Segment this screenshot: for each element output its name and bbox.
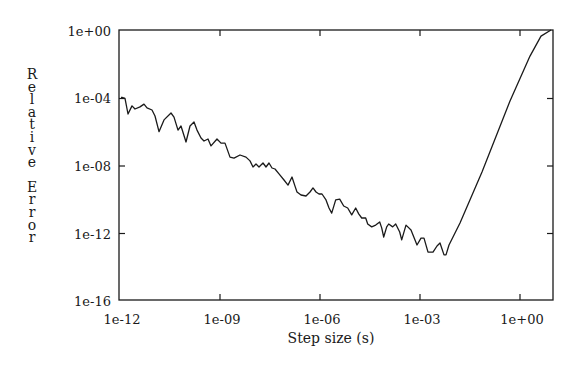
axis-ticks: [119, 30, 553, 300]
y-tick-label: 1e-16: [74, 294, 111, 309]
y-label-letter: e: [24, 156, 40, 169]
x-tick-label: 1e+00: [500, 312, 543, 327]
x-tick-label: 1e-09: [204, 312, 241, 327]
y-tick-label: 1e-08: [74, 159, 111, 174]
y-label-letter: r: [24, 231, 40, 244]
y-tick-label: 1e+00: [68, 24, 111, 39]
x-axis-label: Step size (s): [288, 330, 375, 346]
x-tick-label: 1e-12: [104, 312, 141, 327]
plot-frame: [119, 30, 553, 300]
error-curve: [121, 30, 551, 255]
y-tick-label: 1e-04: [74, 91, 111, 106]
x-tick-label: 1e-06: [304, 312, 341, 327]
y-axis-label: RelativeError: [24, 68, 40, 244]
chart-canvas: [0, 0, 580, 372]
y-tick-label: 1e-12: [74, 227, 111, 242]
x-tick-label: 1e-03: [404, 312, 441, 327]
